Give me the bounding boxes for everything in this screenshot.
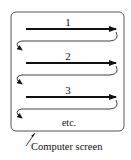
retrace-arrow-3 <box>17 100 117 118</box>
continuation-label: etc. <box>62 117 76 128</box>
caption-computer-screen: Computer screen <box>31 141 103 152</box>
row-label-2: 2 <box>65 50 71 62</box>
row-label-3: 3 <box>65 84 71 96</box>
scan-row-3: 3 <box>17 84 117 118</box>
scan-row-2: 2 <box>17 50 117 84</box>
caption-pointer-head <box>31 133 35 137</box>
row-label-1: 1 <box>65 16 71 28</box>
retrace-arrow-2 <box>17 66 117 84</box>
retrace-arrow-1 <box>17 32 117 50</box>
diagram-canvas: 1 2 3 etc. Computer screen <box>0 0 131 160</box>
scan-row-1: 1 <box>17 16 117 50</box>
